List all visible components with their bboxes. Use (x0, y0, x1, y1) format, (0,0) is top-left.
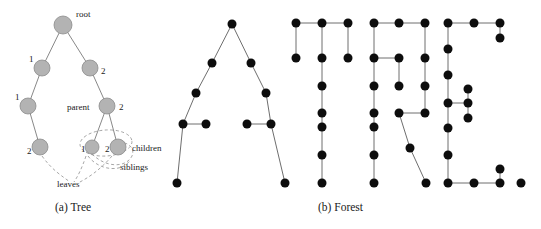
forest-node (281, 179, 290, 188)
tree-node (20, 98, 36, 114)
caption-tree: (a) Tree (55, 201, 91, 214)
forest-node (470, 19, 479, 28)
forest-node (344, 54, 353, 63)
caption-forest: (b) Forest (318, 201, 364, 214)
tree-edge-label: 1 (29, 54, 34, 64)
forest-node (444, 99, 453, 108)
forest-node (318, 19, 327, 28)
forest-node (267, 120, 276, 129)
forest-node (370, 151, 379, 160)
forest-node (464, 85, 473, 94)
forest-letter-nodes-R (370, 19, 431, 188)
forest-node (421, 82, 430, 91)
forest-letter-nodes-A (173, 20, 290, 188)
tree-node (85, 140, 99, 154)
forest-node (444, 124, 453, 133)
forest-edge (177, 124, 183, 183)
tree-annotation-parent: parent (67, 102, 90, 112)
forest-panel (173, 19, 526, 188)
tree-node (32, 139, 48, 155)
tree-annotation-leaves: leaves (57, 179, 80, 189)
forest-node (208, 59, 217, 68)
forest-node (444, 19, 453, 28)
forest-node (318, 151, 327, 160)
forest-node (318, 123, 327, 132)
forest-node (179, 120, 188, 129)
tree-annotation-siblings: siblings (120, 162, 149, 172)
forest-node (444, 71, 453, 80)
tree-edge-label: 1 (15, 92, 20, 102)
forest-node (395, 82, 404, 91)
forest-node (318, 109, 327, 118)
forest-node (370, 19, 379, 28)
tree-edge-group (28, 25, 118, 147)
tree-panel: 1212212 rootparentchildrensiblingsleaves (15, 9, 162, 189)
forest-letter-edges-A (177, 24, 285, 183)
forest-node (496, 34, 505, 43)
tree-edge-label: 1 (81, 144, 86, 154)
forest-node (464, 99, 473, 108)
forest-node (173, 179, 182, 188)
forest-node (517, 179, 526, 188)
forest-edge (266, 93, 271, 124)
forest-node (192, 89, 201, 98)
forest-node (318, 82, 327, 91)
forest-node (262, 89, 271, 98)
forest-node (344, 19, 353, 28)
forest-edge (232, 24, 251, 63)
forest-node (444, 179, 453, 188)
forest-edge (410, 148, 426, 183)
forest-edge (183, 93, 196, 124)
forest-node (421, 109, 430, 118)
forest-node (370, 82, 379, 91)
forest-node (292, 19, 301, 28)
leaves-pointer-far-right (78, 156, 112, 183)
forest-letter-nodes-. (517, 179, 526, 188)
forest-node (395, 109, 404, 118)
tree-node (54, 16, 72, 34)
tree-edge-label: 2 (119, 102, 124, 112)
forest-node (247, 59, 256, 68)
forest-node (496, 165, 505, 174)
tree-node (34, 60, 50, 76)
forest-letter-edges-E (448, 23, 500, 183)
tree-node (82, 60, 98, 76)
forest-node (464, 114, 473, 123)
forest-node (370, 54, 379, 63)
forest-letter-edges-R (374, 23, 426, 183)
forest-edge (399, 113, 410, 148)
forest-edge (212, 24, 232, 63)
forest-node (318, 54, 327, 63)
forest-node (202, 120, 211, 129)
forest-node (470, 179, 479, 188)
tree-edge-label: 2 (27, 146, 32, 156)
forest-node (370, 179, 379, 188)
tree-edge-label: 2 (105, 144, 110, 154)
forest-node (292, 54, 301, 63)
forest-edge (196, 63, 212, 93)
forest-node (228, 20, 237, 29)
tree-annotation-children: children (132, 143, 162, 153)
forest-node (421, 54, 430, 63)
forest-edge (271, 124, 285, 183)
tree-node (99, 98, 115, 114)
forest-node (395, 54, 404, 63)
forest-node (444, 45, 453, 54)
forest-node (422, 179, 431, 188)
forest-node (444, 151, 453, 160)
tree-dashed-annotation-group (42, 128, 133, 183)
forest-node (395, 19, 404, 28)
tree-annotation-root: root (76, 9, 91, 19)
forest-node (421, 19, 430, 28)
forest-node (243, 120, 252, 129)
forest-node (496, 179, 505, 188)
forest-node (370, 123, 379, 132)
tree-forest-figure: 1212212 rootparentchildrensiblingsleaves… (0, 0, 541, 229)
tree-edge-label: 2 (101, 66, 106, 76)
forest-node (318, 179, 327, 188)
forest-node (406, 144, 415, 153)
tree-node (110, 139, 126, 155)
forest-edge (251, 63, 266, 93)
forest-node (370, 109, 379, 118)
forest-node (496, 19, 505, 28)
